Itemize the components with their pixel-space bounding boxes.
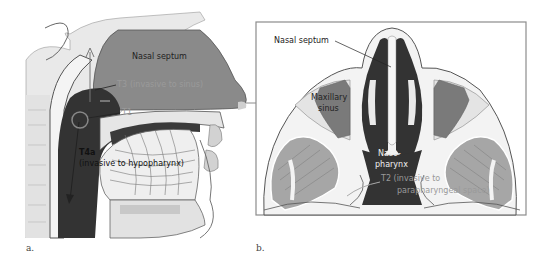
label-maxillary-line2: sinus	[318, 105, 339, 113]
nasal-septum-region	[93, 30, 246, 110]
label-nasal-septum-a: Nasal septum	[132, 53, 187, 61]
panel-a-sagittal-diagram: Nasal septum T3 (invasive to sinus) T1 T…	[0, 0, 256, 262]
label-nasopharynx-line1: Naso-	[378, 150, 401, 158]
label-t4a: T4a	[79, 149, 95, 157]
sagittal-head-illustration	[0, 0, 256, 262]
label-t4a-description: (invasive to hypopharynx)	[79, 160, 184, 168]
label-nasopharynx-line2: pharynx	[375, 161, 408, 169]
label-nasal-septum-b: Nasal septum	[274, 37, 329, 45]
panel-b-caption: b.	[256, 243, 265, 253]
nasal-septum-strip	[388, 36, 396, 145]
panel-b-axial-diagram: Nasal septum Maxillary sinus Naso- phary…	[250, 0, 549, 262]
panel-a-caption: a.	[26, 243, 34, 253]
label-t2-description: parapharyngeal space)	[397, 187, 490, 195]
label-t3-description: (invasive to sinus)	[130, 81, 203, 89]
label-t1: T1	[122, 109, 132, 117]
label-t3: T3	[117, 81, 127, 89]
label-maxillary-line1: Maxillary	[311, 94, 347, 102]
label-t2: T2 (invasive to	[381, 175, 440, 183]
